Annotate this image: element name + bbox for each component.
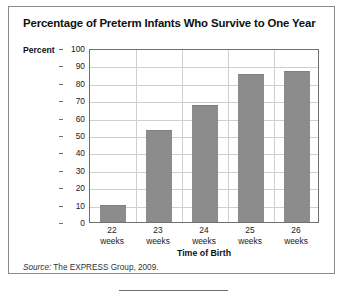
y-tick-label: 70 [63, 96, 85, 106]
x-axis-title: Time of Birth [89, 248, 319, 258]
y-tick-mark [59, 66, 63, 67]
y-tick-label: 40 [63, 148, 85, 158]
y-tick-mark [59, 206, 63, 207]
x-tick-label: 26weeks [273, 225, 319, 246]
y-tick-mark [59, 101, 63, 102]
y-tick-mark [59, 188, 63, 189]
chart-title: Percentage of Preterm Infants Who Surviv… [23, 17, 323, 29]
source-label: Source: [23, 263, 51, 272]
bar [100, 205, 126, 222]
y-tick-mark [59, 223, 63, 224]
x-tick-label-week-number: 25 [245, 225, 254, 235]
x-tick-label-week-number: 26 [291, 225, 300, 235]
y-tick-label: 80 [63, 79, 85, 89]
x-tick-label-week-number: 24 [199, 225, 208, 235]
x-tick-label: 22weeks [89, 225, 135, 246]
bar [284, 71, 310, 222]
y-tick-label: 50 [63, 131, 85, 141]
y-axis-title: Percent [23, 45, 55, 55]
x-tick-label-unit: weeks [89, 236, 135, 247]
y-tick-mark [59, 136, 63, 137]
y-tick-label: 10 [63, 201, 85, 211]
figure-container: Percentage of Preterm Infants Who Surviv… [8, 6, 335, 274]
y-tick-mark [59, 119, 63, 120]
y-tick-label: 90 [63, 61, 85, 71]
y-tick-label: 30 [63, 166, 85, 176]
y-tick-mark [59, 84, 63, 85]
bar [238, 74, 264, 222]
y-tick-label: 20 [63, 183, 85, 193]
source-text: The EXPRESS Group, 2009. [51, 263, 158, 272]
y-tick-mark [59, 171, 63, 172]
y-tick-label: 60 [63, 114, 85, 124]
x-tick-label-unit: weeks [181, 236, 227, 247]
bar [192, 105, 218, 222]
x-tick-label: 23weeks [135, 225, 181, 246]
x-tick-label: 24weeks [181, 225, 227, 246]
x-tick-label-unit: weeks [227, 236, 273, 247]
y-tick-label: 0 [63, 218, 85, 228]
x-tick-label-week-number: 22 [107, 225, 116, 235]
x-tick-label-week-number: 23 [153, 225, 162, 235]
bars-layer [90, 50, 318, 222]
x-tick-label-unit: weeks [135, 236, 181, 247]
bar [146, 130, 172, 222]
x-tick-label: 25weeks [227, 225, 273, 246]
y-axis-tick-labels: 1009080706050403020100 [59, 49, 85, 223]
x-tick-label-unit: weeks [273, 236, 319, 247]
y-tick-mark [59, 153, 63, 154]
bottom-rule [119, 290, 228, 291]
source-note: Source: The EXPRESS Group, 2009. [23, 263, 158, 272]
plot-area [89, 49, 319, 223]
y-tick-mark [59, 49, 63, 50]
y-tick-label: 100 [63, 44, 85, 54]
